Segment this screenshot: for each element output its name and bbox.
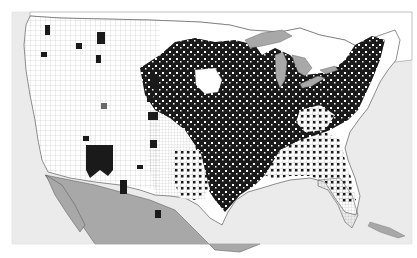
highlighted-county-wa — [45, 25, 50, 35]
highlighted-county-nm — [120, 180, 127, 194]
highlighted-county-mt2 — [96, 55, 101, 63]
us-county-map — [0, 0, 417, 258]
highlighted-county-co — [150, 140, 157, 148]
highlighted-county-nd — [150, 75, 158, 89]
highlighted-county-mt — [97, 32, 105, 44]
highlighted-county-id1 — [76, 43, 82, 49]
highlighted-county-az2 — [83, 136, 89, 141]
highlighted-county-tx — [155, 210, 161, 218]
highlighted-county-ut — [101, 103, 107, 109]
highlighted-county-co2 — [148, 112, 158, 120]
highlighted-county-ks — [137, 165, 143, 169]
highlighted-county-wy — [147, 96, 153, 102]
highlighted-county-or — [41, 52, 47, 57]
